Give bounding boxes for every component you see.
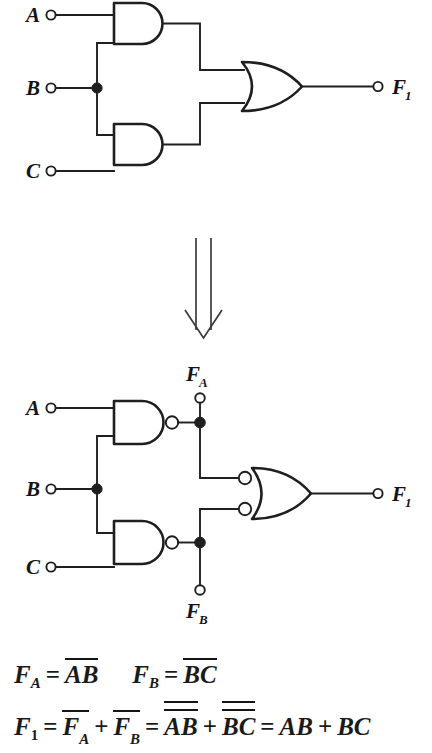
junction-dot-b-top bbox=[92, 83, 102, 93]
output-terminal-f1-top[interactable] bbox=[373, 82, 382, 91]
equation-row-1: FA = AB FB = BC bbox=[14, 650, 217, 687]
wire-and2-to-or bbox=[163, 103, 244, 145]
label-tap-fb: F bbox=[185, 599, 200, 623]
nand-gate-ab-output-bubble bbox=[166, 416, 178, 428]
label-input-b-bottom: B bbox=[25, 477, 40, 501]
eq1-fa-sub: A bbox=[31, 675, 41, 692]
output-terminal-f1-bottom[interactable] bbox=[373, 489, 382, 498]
eq2-term-a-var: F bbox=[62, 713, 79, 740]
eq2-dbl-term-1: AB bbox=[164, 713, 197, 740]
eq2-plus-1: + bbox=[89, 714, 113, 739]
eq2-term-a-sub: A bbox=[79, 731, 89, 747]
eq2-equals-1: = bbox=[38, 714, 62, 739]
label-output-f1-bottom: F bbox=[391, 482, 406, 506]
arrow-head bbox=[185, 310, 222, 338]
eq2-equals-2: = bbox=[140, 714, 164, 739]
eq2-plus-2: + bbox=[198, 714, 222, 739]
eq1-fa-equals: = bbox=[41, 662, 65, 687]
transform-arrow-down bbox=[185, 238, 222, 338]
input-terminal-c-top[interactable] bbox=[46, 166, 55, 175]
nand-gate-bc-output-bubble bbox=[166, 536, 178, 548]
label-tap-fa: F bbox=[185, 362, 200, 386]
label-input-a-bottom: A bbox=[24, 396, 40, 420]
label-input-a-top: A bbox=[24, 3, 40, 27]
junction-dot-b-bottom bbox=[92, 484, 102, 494]
nor-gate-input-bubble-lower bbox=[239, 503, 251, 515]
label-tap-fa-sub: A bbox=[198, 375, 208, 390]
and-gate-ab[interactable] bbox=[114, 3, 162, 44]
wire-b-down-to-nand2 bbox=[97, 489, 114, 533]
wire-b-up-to-nand1 bbox=[97, 436, 114, 489]
label-tap-fb-sub: B bbox=[198, 612, 208, 627]
input-terminal-a-bottom[interactable] bbox=[46, 403, 55, 412]
wire-b-down-to-and2 bbox=[97, 88, 114, 135]
eq2-final-1: AB bbox=[280, 714, 313, 739]
label-input-c-top: C bbox=[26, 159, 41, 183]
label-input-c-bottom: C bbox=[26, 555, 41, 579]
eq2-final-plus: + bbox=[313, 714, 337, 739]
junction-dot-fb bbox=[195, 537, 206, 548]
tap-terminal-fa[interactable] bbox=[195, 393, 205, 403]
label-output-f1-top-sub: 1 bbox=[405, 88, 412, 103]
equation-row-2: F1 = FA + FB = AB + BC = AB + BC bbox=[14, 698, 371, 743]
eq1-fa-term: AB bbox=[65, 661, 98, 688]
circuit-bottom-group: A B C F A F B F 1 bbox=[24, 362, 412, 627]
input-terminal-b-top[interactable] bbox=[46, 83, 55, 92]
eq1-fb-sub: B bbox=[149, 675, 159, 692]
circuit-top-group: A B C F 1 bbox=[24, 3, 412, 183]
eq2-f1-var: F bbox=[14, 714, 31, 739]
or-gate-f1[interactable] bbox=[242, 62, 302, 111]
wire-fa-to-nor-upper bbox=[200, 423, 238, 479]
eq2-equals-3: = bbox=[255, 714, 279, 739]
eq2-final-2: BC bbox=[337, 714, 370, 739]
wire-and1-to-or bbox=[163, 24, 244, 71]
eq2-term-b-sub: B bbox=[130, 731, 140, 747]
label-input-b-top: B bbox=[25, 76, 40, 100]
eq2-dbl-term-2: BC bbox=[222, 713, 255, 740]
input-terminal-c-bottom[interactable] bbox=[46, 562, 55, 571]
nor-gate-input-bubble-upper bbox=[239, 472, 251, 484]
nand-gate-ab[interactable] bbox=[114, 401, 164, 444]
label-output-f1-bottom-sub: 1 bbox=[405, 495, 412, 510]
label-output-f1-top: F bbox=[391, 75, 406, 99]
eq1-fa-var: F bbox=[14, 662, 31, 687]
equations-block: FA = AB FB = BC F1 = FA + FB = AB + BC =… bbox=[0, 636, 432, 753]
input-terminal-b-bottom[interactable] bbox=[46, 484, 55, 493]
eq2-f1-sub: 1 bbox=[31, 727, 39, 744]
eq1-fb-equals: = bbox=[159, 662, 183, 687]
junction-dot-fa bbox=[195, 417, 206, 428]
eq1-fb-term: BC bbox=[183, 661, 216, 688]
wire-fb-to-nor-lower bbox=[200, 509, 238, 543]
and-gate-bc[interactable] bbox=[114, 124, 162, 165]
tap-terminal-fb[interactable] bbox=[195, 585, 205, 595]
eq1-fb-var: F bbox=[132, 662, 149, 687]
nor-gate-f1[interactable] bbox=[252, 468, 311, 519]
input-terminal-a-top[interactable] bbox=[46, 10, 55, 19]
wire-b-up-to-and1 bbox=[97, 43, 114, 88]
eq2-term-b-var: F bbox=[113, 713, 130, 740]
nand-gate-bc[interactable] bbox=[114, 521, 164, 564]
